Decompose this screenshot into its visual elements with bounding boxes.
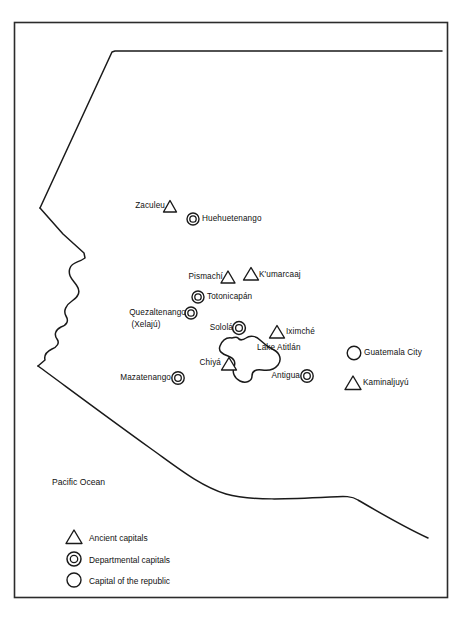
symbol-circle-guatemala-city	[347, 346, 361, 360]
legend-label-text: Capital of the republic	[89, 576, 170, 586]
legend-item-ancient-capitals: Ancient capitals	[89, 533, 148, 543]
symbol-double-circle-antigua	[301, 370, 313, 382]
place-label-iximche: Iximché	[286, 327, 315, 337]
symbol-double-circle-solola	[233, 322, 246, 335]
place-label-guatemala-city: Guatemala City	[364, 348, 422, 358]
place-name-text: Zaculeu	[135, 201, 165, 210]
symbol-double-circle-huehuetenango	[187, 213, 199, 225]
place-name-text: Mazatenango	[120, 373, 171, 382]
place-name-text: Chiyá	[200, 358, 221, 367]
legend-label-text: Departmental capitals	[89, 555, 170, 565]
map-frame	[15, 23, 448, 598]
symbol-double-circle-totonicapan	[192, 291, 204, 303]
place-label-mazatenango: Mazatenango	[83, 373, 171, 383]
place-label-solola: Sololá	[163, 323, 233, 333]
legend-symbol-circle	[67, 573, 81, 587]
place-label-kaminaljuyu: Kaminaljuyú	[363, 378, 409, 388]
place-sublabel-text: (Xelajú)	[131, 320, 160, 329]
place-label-pismachi: Pismachí	[143, 272, 223, 282]
place-name-text: Guatemala City	[364, 348, 422, 357]
place-label-totonicapan: Totonicapán	[207, 292, 252, 302]
legend-symbol-double-circle	[67, 552, 81, 566]
legend-label-text: Ancient capitals	[89, 533, 148, 543]
lake-label: Lake Atitlán	[257, 343, 301, 353]
place-label-antigua: Antigua	[245, 371, 300, 381]
map-canvas	[0, 0, 472, 620]
place-name-text: Pismachí	[189, 272, 223, 281]
symbol-double-circle-mazatenango	[172, 372, 184, 384]
place-label-quezaltenango: Quezaltenango	[86, 308, 186, 318]
place-label-huehuetenango: Huehuetenango	[202, 214, 262, 224]
map-figure: Zaculeu Huehuetenango Pismachí K'umarcaa…	[0, 0, 472, 620]
lake-label-text: Lake Atitlán	[257, 343, 301, 352]
place-label-kumarcaaj: K'umarcaaj	[259, 270, 301, 280]
place-name-text: Totonicapán	[207, 292, 252, 301]
place-label-zaculeu: Zaculeu	[65, 201, 165, 211]
place-name-text: Sololá	[210, 323, 233, 332]
place-label-chiya: Chiyá	[171, 358, 221, 368]
legend-symbols	[66, 530, 82, 587]
symbol-double-circle-quezaltenango	[185, 307, 197, 319]
place-name-text: Kaminaljuyú	[363, 378, 409, 387]
legend-item-departmental-capitals: Departmental capitals	[89, 555, 170, 565]
place-name-text: Antigua	[272, 371, 300, 380]
place-name-text: Quezaltenango	[129, 308, 186, 317]
place-name-text: Iximché	[286, 327, 315, 336]
place-name-text: K'umarcaaj	[259, 270, 301, 279]
place-name-text: Huehuetenango	[202, 214, 262, 223]
legend-item-capital-of-republic: Capital of the republic	[89, 576, 170, 586]
ocean-label-text: Pacific Ocean	[52, 477, 105, 487]
pacific-ocean-label: Pacific Ocean	[52, 477, 105, 487]
